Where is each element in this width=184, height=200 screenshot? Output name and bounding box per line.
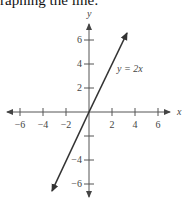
x-tick-label: 2 xyxy=(110,119,115,130)
x-axis: x xyxy=(7,106,182,117)
y-tick-label: −4 xyxy=(71,154,82,165)
x-ticks: −6 −4 −2 2 4 6 xyxy=(15,108,161,130)
x-tick-label: 4 xyxy=(133,119,138,130)
coordinate-plane: x y −6 −4 −2 2 4 6 6 4 2 −4 −6 xyxy=(0,0,184,200)
y-tick-label: 4 xyxy=(77,58,82,69)
x-tick-label: −4 xyxy=(38,119,49,130)
y-tick-label: 6 xyxy=(77,34,82,45)
x-tick-label: −6 xyxy=(15,119,26,130)
y-axis: y xyxy=(86,8,92,197)
x-tick-label: 6 xyxy=(156,119,161,130)
line-equation-label: y = 2x xyxy=(116,63,143,74)
y-tick-label: 2 xyxy=(77,82,82,93)
x-axis-label: x xyxy=(176,106,182,117)
x-tick-label: −2 xyxy=(61,119,72,130)
y-axis-label: y xyxy=(86,8,92,19)
y-tick-label: −6 xyxy=(71,178,82,189)
